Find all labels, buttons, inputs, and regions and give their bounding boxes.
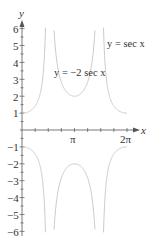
y-tick-1: 1: [13, 107, 19, 119]
x-axis-arrow-icon: [133, 128, 140, 133]
y-axis-label: y: [18, 7, 24, 19]
y-tick-5: 5: [13, 40, 19, 52]
curve-neg2sec-upper-middle: [54, 30, 95, 96]
curve-lower-right: [104, 147, 127, 232]
curve-label-sec: y = sec x: [107, 38, 145, 49]
x-tick-2pi: 2π: [120, 133, 132, 145]
y-tick-6: 6: [13, 23, 19, 35]
curve-lower-middle: [54, 164, 95, 230]
y-axis-arrow-icon: [20, 20, 25, 27]
x-axis-label: x: [140, 124, 146, 136]
y-tick-neg3: −3: [7, 175, 19, 187]
axes: [20, 22, 135, 236]
y-tick-neg2: −2: [7, 158, 19, 170]
curve-label-neg2sec: y = −2 sec x: [54, 67, 106, 78]
y-tick-neg1: −1: [7, 141, 19, 153]
curve-lower-left: [22, 147, 45, 232]
y-tick-neg4: −4: [7, 192, 19, 204]
y-tick-neg5: −5: [7, 209, 19, 221]
y-tick-2: 2: [13, 91, 19, 103]
secant-graph: y x 6 5 4 3 2 1 −1 −2 −3 −4 −5 −6 π 2π y…: [0, 0, 158, 249]
y-tick-3: 3: [13, 74, 19, 86]
curve-sec-upper-left: [22, 28, 45, 113]
y-tick-4: 4: [13, 57, 19, 69]
y-tick-neg6: −6: [7, 226, 19, 238]
x-tick-pi: π: [70, 133, 76, 145]
